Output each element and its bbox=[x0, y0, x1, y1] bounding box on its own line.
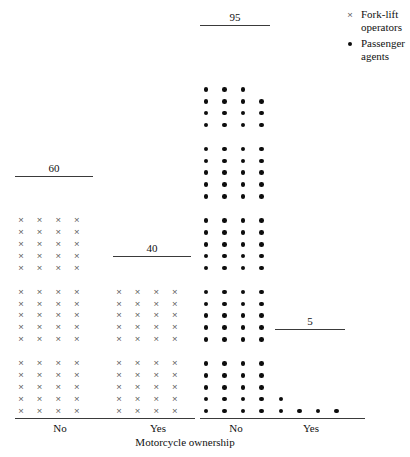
legend-label-forklift-line1: Fork-lift bbox=[361, 8, 410, 21]
cross-mark bbox=[134, 288, 142, 296]
dot-mark bbox=[239, 97, 247, 105]
dot-mark bbox=[296, 407, 304, 415]
dot-mark bbox=[258, 97, 266, 105]
dot-mark bbox=[258, 157, 266, 165]
dot-mark bbox=[202, 312, 210, 320]
dot-mark bbox=[221, 121, 229, 129]
group-rule-40 bbox=[113, 256, 191, 257]
cross-mark bbox=[73, 360, 81, 368]
cross-mark bbox=[115, 360, 123, 368]
dot-mark bbox=[221, 324, 229, 332]
dot-mark bbox=[202, 181, 210, 189]
cross-mark bbox=[36, 336, 44, 344]
dot-mark bbox=[221, 264, 229, 272]
cross-mark bbox=[115, 300, 123, 308]
cross-mark bbox=[152, 336, 160, 344]
dot-mark bbox=[221, 383, 229, 391]
group-rule-95 bbox=[200, 25, 270, 26]
dot-mark bbox=[221, 157, 229, 165]
cross-mark bbox=[36, 240, 44, 248]
dot-mark bbox=[202, 407, 210, 415]
dot-mark bbox=[239, 360, 247, 368]
cross-mark bbox=[17, 229, 25, 237]
cross-mark bbox=[115, 336, 123, 344]
dot-mark bbox=[277, 407, 285, 415]
cross-mark bbox=[152, 288, 160, 296]
cross-mark bbox=[171, 312, 179, 320]
cross-mark bbox=[54, 372, 62, 380]
cross-mark bbox=[134, 372, 142, 380]
dot-mark bbox=[202, 109, 210, 117]
cross-mark bbox=[134, 360, 142, 368]
cross-mark bbox=[54, 407, 62, 415]
cross-mark bbox=[115, 383, 123, 391]
dot-mark bbox=[258, 360, 266, 368]
dot-mark bbox=[202, 97, 210, 105]
cross-mark bbox=[152, 360, 160, 368]
dot-mark bbox=[221, 229, 229, 237]
axis-tick-yes-left: Yes bbox=[128, 422, 188, 434]
cross-mark bbox=[73, 372, 81, 380]
cross-mark bbox=[36, 252, 44, 260]
dot-mark bbox=[258, 181, 266, 189]
dot-mark bbox=[202, 264, 210, 272]
dot-mark bbox=[221, 360, 229, 368]
dot-mark bbox=[202, 145, 210, 153]
group-count-label-40: 40 bbox=[113, 242, 191, 254]
dot-mark bbox=[239, 407, 247, 415]
cross-mark bbox=[134, 300, 142, 308]
cross-mark bbox=[73, 395, 81, 403]
cross-mark bbox=[17, 252, 25, 260]
cross-mark bbox=[54, 324, 62, 332]
cross-mark bbox=[171, 300, 179, 308]
cross-mark bbox=[73, 312, 81, 320]
dot-mark bbox=[221, 288, 229, 296]
cross-mark bbox=[73, 336, 81, 344]
dot-mark bbox=[258, 217, 266, 225]
cross-mark bbox=[115, 312, 123, 320]
cross-mark bbox=[54, 300, 62, 308]
cross-mark bbox=[171, 383, 179, 391]
dot-mark bbox=[258, 121, 266, 129]
dot-mark bbox=[239, 372, 247, 380]
dot-mark bbox=[258, 372, 266, 380]
axis-line-right bbox=[200, 418, 365, 419]
dot-mark bbox=[202, 240, 210, 248]
cross-mark bbox=[36, 288, 44, 296]
cross-mark bbox=[134, 383, 142, 391]
dot-mark bbox=[239, 121, 247, 129]
dot-mark bbox=[202, 336, 210, 344]
cross-mark bbox=[73, 264, 81, 272]
dot-mark bbox=[239, 240, 247, 248]
cross-mark bbox=[171, 395, 179, 403]
dot-mark bbox=[258, 300, 266, 308]
group-count-label-60: 60 bbox=[15, 162, 93, 174]
dot-icon bbox=[345, 37, 355, 50]
group-rule-5 bbox=[275, 329, 345, 330]
dot-mark bbox=[202, 217, 210, 225]
dot-mark bbox=[239, 336, 247, 344]
cross-mark bbox=[171, 360, 179, 368]
cross-mark bbox=[152, 395, 160, 403]
cross-mark bbox=[73, 383, 81, 391]
cross-mark bbox=[115, 372, 123, 380]
dot-mark bbox=[239, 312, 247, 320]
cross-mark bbox=[134, 324, 142, 332]
dot-mark bbox=[202, 86, 210, 94]
dot-mark bbox=[258, 145, 266, 153]
dot-mark bbox=[221, 97, 229, 105]
dot-mark bbox=[221, 336, 229, 344]
dot-mark bbox=[202, 288, 210, 296]
dot-mark bbox=[239, 181, 247, 189]
cross-mark bbox=[152, 312, 160, 320]
dot-mark bbox=[239, 229, 247, 237]
dot-mark bbox=[258, 109, 266, 117]
dot-mark bbox=[202, 193, 210, 201]
cross-mark bbox=[36, 300, 44, 308]
legend-item-agents: Passenger agents bbox=[345, 37, 410, 63]
cross-mark bbox=[54, 312, 62, 320]
dot-mark bbox=[239, 169, 247, 177]
dot-mark bbox=[239, 395, 247, 403]
legend-label-agents-line1: Passenger bbox=[361, 37, 410, 50]
